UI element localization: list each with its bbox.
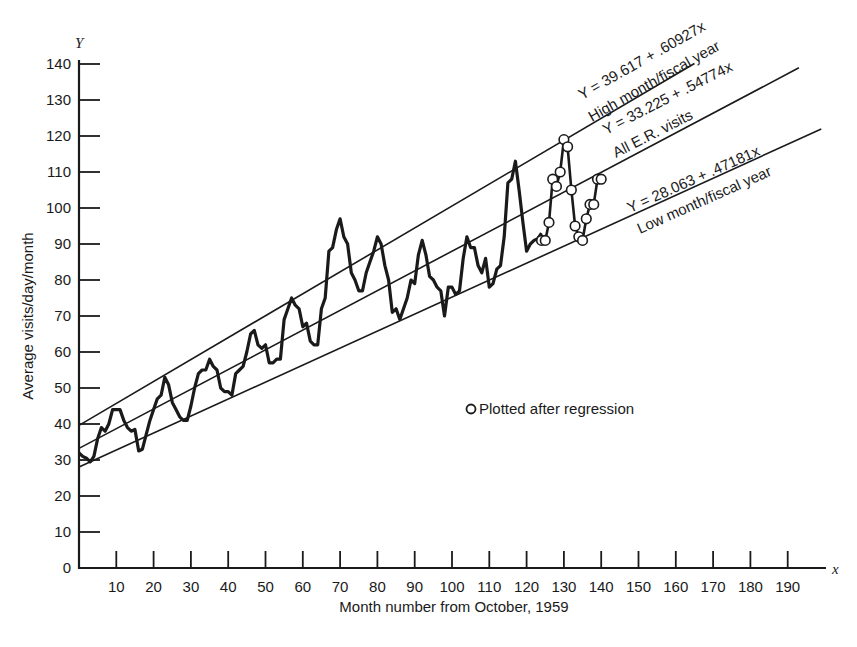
x-tick-label: 80 <box>369 578 386 595</box>
x-tick-label: 170 <box>701 578 726 595</box>
y-tick-label: 70 <box>54 307 71 324</box>
legend: Plotted after regression <box>467 400 635 417</box>
y-axis-variable: Y <box>75 35 85 51</box>
x-tick-label: 20 <box>145 578 162 595</box>
open-circle-point <box>570 221 580 231</box>
open-circle-point <box>581 214 591 224</box>
regression-chart: Y x 0102030405060708090100110120130140 1… <box>0 0 857 647</box>
x-tick-label: 110 <box>477 578 501 595</box>
open-circle-point <box>563 142 573 152</box>
y-ticks: 0102030405060708090100110120130140 <box>46 55 100 576</box>
y-tick-label: 90 <box>54 235 71 252</box>
y-tick-label: 0 <box>63 559 71 576</box>
x-tick-label: 160 <box>663 578 688 595</box>
y-tick-label: 140 <box>46 55 71 72</box>
x-tick-label: 30 <box>183 578 200 595</box>
x-axis-variable: x <box>831 561 839 577</box>
y-tick-label: 60 <box>54 343 71 360</box>
open-circle-marker-icon <box>467 405 476 414</box>
main-series-line <box>79 161 542 462</box>
x-tick-label: 150 <box>626 578 651 595</box>
x-tick-label: 50 <box>257 578 274 595</box>
y-tick-label: 100 <box>46 199 71 216</box>
open-circle-point <box>596 174 606 184</box>
post-regression-series <box>537 135 606 245</box>
y-tick-label: 40 <box>54 415 71 432</box>
x-tick-label: 190 <box>775 578 800 595</box>
open-circle-point <box>552 182 562 192</box>
open-circle-point <box>544 218 554 228</box>
x-tick-label: 140 <box>589 578 614 595</box>
x-ticks: 1020304050607080901001101201301401501601… <box>108 551 800 595</box>
equation-annotations: Y = 39.617 + .60927x High month/fiscal y… <box>575 17 774 237</box>
open-circle-point <box>578 236 588 246</box>
y-tick-label: 50 <box>54 379 71 396</box>
open-circle-point <box>555 167 565 177</box>
open-circle-point <box>567 185 577 195</box>
open-circle-point <box>540 236 550 246</box>
x-tick-label: 70 <box>332 578 349 595</box>
axes: Y x 0102030405060708090100110120130140 1… <box>19 35 839 615</box>
x-tick-label: 180 <box>738 578 763 595</box>
main-series <box>79 161 542 462</box>
y-tick-label: 110 <box>47 163 71 180</box>
x-axis-title: Month number from October, 1959 <box>339 598 568 615</box>
y-axis-title: Average visits/day/month <box>19 232 36 399</box>
y-tick-label: 130 <box>46 91 71 108</box>
legend-label: Plotted after regression <box>479 400 634 417</box>
all-visits-regression-line <box>79 68 799 449</box>
x-tick-label: 130 <box>551 578 576 595</box>
y-tick-label: 20 <box>54 487 71 504</box>
x-tick-label: 100 <box>439 578 464 595</box>
x-tick-label: 120 <box>514 578 539 595</box>
y-tick-label: 10 <box>54 523 71 540</box>
x-tick-label: 90 <box>406 578 423 595</box>
y-tick-label: 80 <box>54 271 71 288</box>
x-tick-label: 40 <box>220 578 237 595</box>
open-circle-point <box>589 200 599 210</box>
y-tick-label: 120 <box>46 127 71 144</box>
y-tick-label: 30 <box>54 451 71 468</box>
x-tick-label: 10 <box>108 578 125 595</box>
x-tick-label: 60 <box>294 578 311 595</box>
